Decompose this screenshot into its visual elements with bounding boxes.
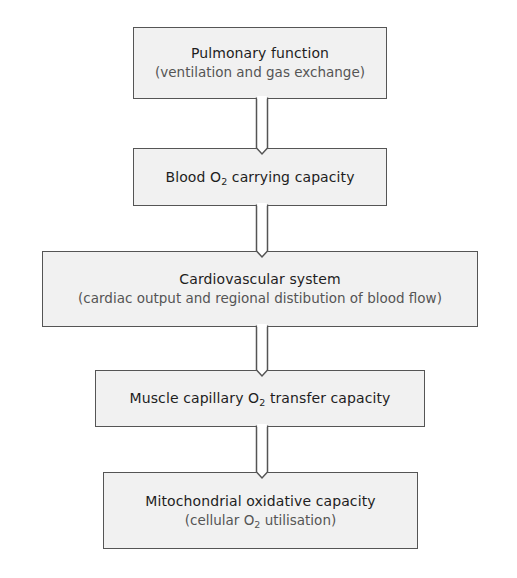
arrow-down-icon — [257, 98, 268, 155]
oxygen-transport-flowchart: Pulmonary function (ventilation and gas … — [0, 0, 517, 578]
box-title: Pulmonary function — [191, 44, 329, 63]
box-subtitle: (cellular O2 utilisation) — [185, 511, 336, 530]
subtitle-text: (cellular O — [185, 512, 255, 528]
box-title: Muscle capillary O2 transfer capacity — [130, 389, 391, 408]
title-text: Muscle capillary O — [130, 390, 260, 406]
title-text: carrying capacity — [227, 169, 354, 185]
box-blood-o2-carrying-capacity: Blood O2 carrying capacity — [133, 148, 387, 206]
box-muscle-capillary-o2-transfer: Muscle capillary O2 transfer capacity — [95, 370, 425, 427]
box-pulmonary-function: Pulmonary function (ventilation and gas … — [133, 27, 387, 99]
subtitle-text: utilisation) — [260, 512, 336, 528]
box-title: Mitochondrial oxidative capacity — [145, 492, 375, 511]
arrow-down-icon — [257, 205, 268, 258]
title-text: Blood O — [165, 169, 221, 185]
box-title: Cardiovascular system — [179, 270, 340, 289]
box-title: Blood O2 carrying capacity — [165, 168, 354, 187]
box-subtitle: (cardiac output and regional distibution… — [78, 289, 442, 308]
box-mitochondrial-oxidative-capacity: Mitochondrial oxidative capacity (cellul… — [103, 472, 418, 549]
arrow-down-icon — [257, 326, 268, 377]
title-text: transfer capacity — [265, 390, 390, 406]
arrow-down-icon — [257, 426, 268, 479]
box-cardiovascular-system: Cardiovascular system (cardiac output an… — [42, 251, 478, 327]
box-subtitle: (ventilation and gas exchange) — [155, 63, 365, 82]
